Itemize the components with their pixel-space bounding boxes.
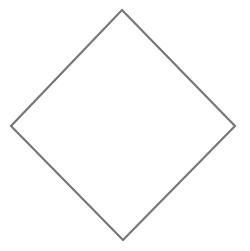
diagram-canvas: [0, 0, 250, 251]
background: [0, 0, 250, 251]
